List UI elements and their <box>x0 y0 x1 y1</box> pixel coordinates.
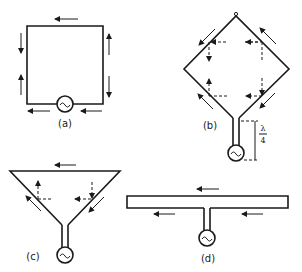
ac-source-icon <box>199 230 215 246</box>
antenna-diagram: (a) λ 4 (b) <box>0 0 302 272</box>
ac-source-icon <box>228 145 244 161</box>
panel-label: (d) <box>201 253 215 264</box>
panel-label: (a) <box>58 118 72 129</box>
four-label: 4 <box>260 136 265 145</box>
lambda-label: λ <box>260 124 265 133</box>
folded-dipole <box>127 196 288 208</box>
panel-label: (b) <box>203 120 217 131</box>
panel-c: (c) <box>10 165 120 263</box>
diamond-loop <box>184 16 289 118</box>
ac-source-icon <box>57 96 73 112</box>
quarter-wavelength-dimension: λ 4 <box>241 121 267 160</box>
panel-d: (d) <box>127 189 288 264</box>
ac-source-icon <box>57 247 73 263</box>
panel-label: (c) <box>26 251 39 262</box>
panel-b: λ 4 (b) <box>184 12 289 161</box>
current-arrow-icon <box>26 196 41 211</box>
current-arrow-icon <box>199 29 215 45</box>
panel-a: (a) <box>21 19 109 129</box>
square-loop <box>27 26 103 104</box>
current-arrow-icon <box>89 197 104 212</box>
